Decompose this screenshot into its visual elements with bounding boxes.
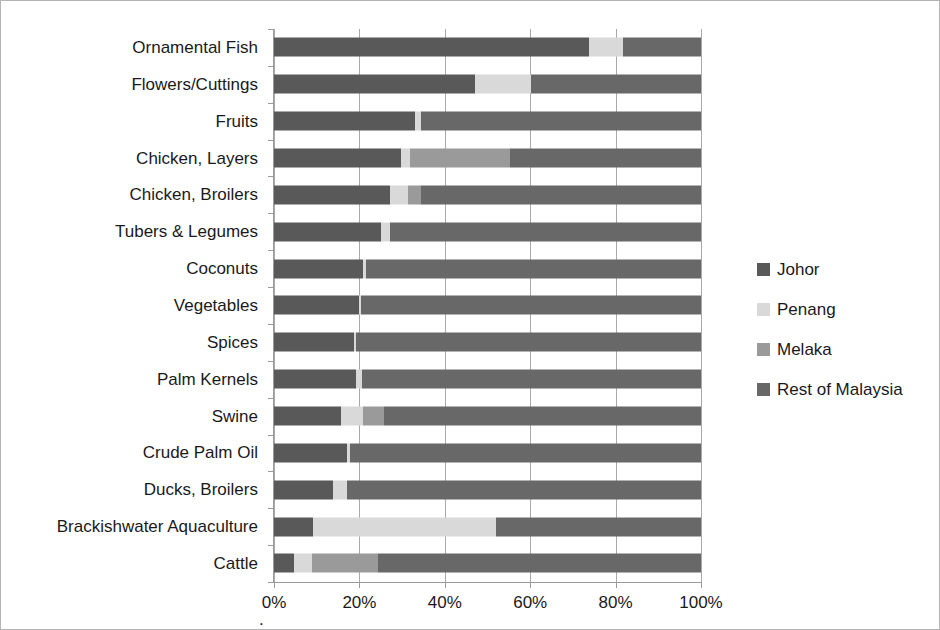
x-axis-label: 100%: [679, 593, 722, 613]
stacked-bar: [274, 370, 701, 389]
bar-segment-rest-of-malaysia[interactable]: [496, 517, 701, 536]
bar-segment-penang[interactable]: [589, 38, 623, 57]
bar-row[interactable]: [274, 398, 701, 435]
category-label: Chicken, Layers: [9, 140, 267, 177]
bar-segment-rest-of-malaysia[interactable]: [366, 259, 701, 278]
bar-segment-johor[interactable]: [274, 38, 589, 57]
bar-segment-penang[interactable]: [381, 222, 390, 241]
bar-segment-penang[interactable]: [313, 517, 496, 536]
stacked-bar: [274, 480, 701, 499]
x-axis-label: 0%: [262, 593, 287, 613]
bar-segment-melaka[interactable]: [363, 407, 384, 426]
legend-item[interactable]: Johor: [757, 249, 933, 289]
x-axis-label: 80%: [599, 593, 633, 613]
bar-segment-rest-of-malaysia[interactable]: [531, 75, 701, 94]
bar-row[interactable]: [274, 103, 701, 140]
bar-segment-johor[interactable]: [274, 222, 381, 241]
bar-row[interactable]: [274, 434, 701, 471]
legend-swatch-johor: [757, 263, 770, 276]
bar-segment-penang[interactable]: [390, 185, 408, 204]
bar-segment-rest-of-malaysia[interactable]: [421, 112, 701, 131]
bar-row[interactable]: [274, 250, 701, 287]
bar-segment-johor[interactable]: [274, 75, 475, 94]
bar-segment-rest-of-malaysia[interactable]: [390, 222, 701, 241]
bar-segment-rest-of-malaysia[interactable]: [347, 480, 701, 499]
bar-segment-johor[interactable]: [274, 185, 390, 204]
stacked-bar: [274, 222, 701, 241]
stacked-bar: [274, 259, 701, 278]
bar-segment-johor[interactable]: [274, 554, 294, 573]
bar-segment-penang[interactable]: [341, 407, 363, 426]
bar-segment-johor[interactable]: [274, 149, 401, 168]
bar-row[interactable]: [274, 213, 701, 250]
gridline: [701, 29, 702, 582]
category-axis: Ornamental FishFlowers/CuttingsFruitsChi…: [9, 29, 267, 582]
category-label: Spices: [9, 324, 267, 361]
bar-row[interactable]: [274, 545, 701, 582]
category-label: Crude Palm Oil: [9, 434, 267, 471]
bar-segment-melaka[interactable]: [410, 149, 510, 168]
bar-segment-penang[interactable]: [401, 149, 410, 168]
bar-segment-rest-of-malaysia[interactable]: [362, 370, 701, 389]
bar-segment-rest-of-malaysia[interactable]: [623, 38, 701, 57]
bar-segment-johor[interactable]: [274, 112, 415, 131]
legend-swatch-melaka: [757, 343, 770, 356]
x-axis-tick: [616, 582, 617, 588]
bar-segment-johor[interactable]: [274, 443, 347, 462]
bar-row[interactable]: [274, 361, 701, 398]
legend-item[interactable]: Penang: [757, 289, 933, 329]
bar-segment-johor[interactable]: [274, 259, 363, 278]
x-axis-tickmarks: [274, 582, 701, 588]
bar-row[interactable]: [274, 29, 701, 66]
bar-row[interactable]: [274, 176, 701, 213]
stacked-bar: [274, 185, 701, 204]
category-label: Ornamental Fish: [9, 29, 267, 66]
stacked-bar: [274, 112, 701, 131]
category-label: Swine: [9, 398, 267, 435]
bar-segment-penang[interactable]: [294, 554, 312, 573]
bar-segment-penang[interactable]: [475, 75, 531, 94]
stacked-bar: [274, 75, 701, 94]
legend-item[interactable]: Melaka: [757, 329, 933, 369]
x-axis-label: 60%: [513, 593, 547, 613]
x-axis-label: 40%: [428, 593, 462, 613]
bar-segment-melaka[interactable]: [408, 185, 421, 204]
bar-segment-johor[interactable]: [274, 517, 313, 536]
bar-row[interactable]: [274, 140, 701, 177]
bar-segment-melaka[interactable]: [312, 554, 378, 573]
x-axis-tick: [530, 582, 531, 588]
category-label: Palm Kernels: [9, 361, 267, 398]
x-axis-tick: [445, 582, 446, 588]
category-label: Coconuts: [9, 250, 267, 287]
x-axis-tick: [274, 582, 275, 588]
bar-segment-johor[interactable]: [274, 370, 356, 389]
stacked-bar: [274, 407, 701, 426]
bar-row[interactable]: [274, 471, 701, 508]
bar-row[interactable]: [274, 324, 701, 361]
bar-row[interactable]: [274, 287, 701, 324]
legend-item[interactable]: Rest of Malaysia: [757, 369, 933, 409]
bar-segment-penang[interactable]: [333, 480, 347, 499]
bar-segment-johor[interactable]: [274, 296, 359, 315]
x-axis-labels: 0%20%40%60%80%100%: [234, 593, 741, 621]
origin-marker: .: [259, 610, 264, 630]
stacked-bar: [274, 296, 701, 315]
x-axis-tick: [359, 582, 360, 588]
bar-segment-rest-of-malaysia[interactable]: [350, 443, 701, 462]
bar-segment-rest-of-malaysia[interactable]: [361, 296, 701, 315]
bar-segment-johor[interactable]: [274, 480, 333, 499]
bar-row[interactable]: [274, 66, 701, 103]
category-label: Tubers & Legumes: [9, 213, 267, 250]
legend-label: Rest of Malaysia: [777, 381, 903, 398]
stacked-bar: [274, 149, 701, 168]
category-label: Flowers/Cuttings: [9, 66, 267, 103]
bar-segment-johor[interactable]: [274, 333, 354, 352]
bar-row[interactable]: [274, 508, 701, 545]
bar-segment-rest-of-malaysia[interactable]: [384, 407, 701, 426]
bar-segment-rest-of-malaysia[interactable]: [378, 554, 701, 573]
bar-segment-johor[interactable]: [274, 407, 341, 426]
bar-segment-rest-of-malaysia[interactable]: [356, 333, 701, 352]
bar-segment-rest-of-malaysia[interactable]: [421, 185, 701, 204]
category-label: Fruits: [9, 103, 267, 140]
bar-segment-rest-of-malaysia[interactable]: [510, 149, 701, 168]
